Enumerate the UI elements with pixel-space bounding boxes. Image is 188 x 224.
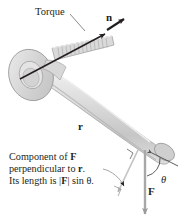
- caption-line2-text: perpendicular to: [9, 163, 78, 174]
- force-vector-label: F: [148, 186, 155, 197]
- caption-line1-force-symbol: F: [70, 151, 76, 162]
- right-angle-marker: [127, 149, 133, 159]
- wrench-handle: [44, 68, 170, 164]
- perpendicular-component-caption: Component of F perpendicular to r. Its l…: [9, 151, 94, 186]
- torque-wrench-figure: Torque n r F θ Component of F perpendicu…: [0, 0, 188, 224]
- caption-line1-text: Component of: [9, 151, 70, 162]
- caption-line-2: perpendicular to r.: [9, 163, 94, 175]
- caption-line-3: Its length is |F| sin θ.: [9, 175, 94, 187]
- perpendicular-component-arrow: [118, 150, 138, 192]
- caption-line3-text: Its length is |: [9, 175, 61, 186]
- caption-line3-mid: | sin: [67, 175, 86, 186]
- theta-angle-label: θ: [161, 175, 166, 186]
- caption-leader-line: [103, 169, 124, 186]
- radius-vector-label: r: [78, 121, 83, 132]
- wrench-illustration: [2, 36, 178, 164]
- normal-vector-label: n: [106, 12, 112, 23]
- torque-label: Torque: [35, 7, 65, 18]
- torque-leader-line: [70, 14, 85, 31]
- figure-artwork: [0, 0, 188, 224]
- caption-line3-period: .: [91, 175, 94, 186]
- caption-line-1: Component of F: [9, 151, 94, 163]
- caption-line2-period: .: [83, 163, 86, 174]
